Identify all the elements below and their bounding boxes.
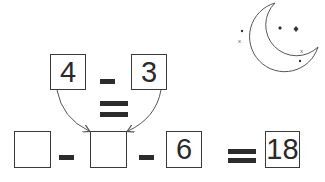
bottom-blank-box-1[interactable]	[14, 131, 51, 168]
svg-text:x: x	[238, 38, 241, 44]
result-box: 18	[265, 131, 300, 168]
bottom-equals-bottom-bar	[228, 158, 256, 163]
right-arrow-icon	[128, 90, 161, 131]
bottom-minus-sign-2	[139, 155, 154, 160]
bottom-blank-box-2[interactable]	[90, 131, 127, 168]
result-value: 18	[266, 135, 298, 164]
left-arrow-icon	[57, 90, 89, 131]
svg-text:x: x	[300, 48, 303, 54]
bottom-equals-top-bar	[228, 149, 256, 154]
bottom-number-box-6: 6	[166, 131, 202, 168]
bottom-box-3-value: 6	[176, 135, 192, 164]
bottom-minus-sign-1	[59, 155, 74, 160]
crescent-moon-icon: x x	[238, 3, 318, 72]
